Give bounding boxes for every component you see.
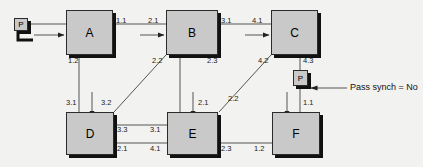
terminal-p-synch-label: P bbox=[298, 74, 303, 83]
label-c-in-left: 4.1 bbox=[252, 17, 262, 25]
node-e[interactable]: E bbox=[167, 112, 218, 155]
label-f-in-left: 1.2 bbox=[254, 145, 264, 153]
label-e-in-upper: 3.1 bbox=[150, 126, 160, 134]
node-b[interactable]: B bbox=[166, 10, 218, 55]
terminal-p-synch[interactable]: P bbox=[293, 70, 308, 86]
node-b-label: B bbox=[188, 26, 196, 40]
node-d-label: D bbox=[86, 127, 95, 141]
node-c-label: C bbox=[290, 26, 299, 40]
label-e-in-topright: 2.2 bbox=[228, 95, 238, 103]
label-d-in-lower: 2.1 bbox=[117, 145, 127, 153]
node-f[interactable]: F bbox=[272, 112, 320, 155]
label-e-out-lower: 4.1 bbox=[150, 145, 160, 153]
node-c[interactable]: C bbox=[271, 10, 318, 55]
label-d-in-topleft: 3.1 bbox=[66, 99, 76, 107]
node-e-label: E bbox=[188, 127, 196, 141]
label-e-out-right: 2.3 bbox=[221, 145, 231, 153]
terminal-p-input[interactable]: P bbox=[14, 18, 28, 31]
label-e-in-top: 2.1 bbox=[198, 99, 208, 107]
label-c-out-bottomleft: 4.2 bbox=[258, 57, 268, 65]
label-b-out-right: 3.1 bbox=[221, 17, 231, 25]
pass-synch-annotation: Pass synch = No bbox=[350, 83, 418, 92]
label-d-out-upper: 3.3 bbox=[117, 126, 127, 134]
process-flow-diagram: A B C D E F P P Pass synch = No 1.1 2.1 … bbox=[0, 0, 423, 167]
node-a-label: A bbox=[85, 26, 93, 40]
label-a-out-right: 1.1 bbox=[116, 17, 126, 25]
label-b-in-left: 2.1 bbox=[148, 17, 158, 25]
label-f-in-top: 1.1 bbox=[303, 99, 313, 107]
terminal-p-input-label: P bbox=[18, 20, 23, 29]
label-a-out-bottom: 1.2 bbox=[68, 57, 78, 65]
label-d-in-topright: 3.2 bbox=[101, 99, 111, 107]
node-a[interactable]: A bbox=[66, 10, 113, 55]
node-d[interactable]: D bbox=[66, 112, 114, 155]
node-f-label: F bbox=[292, 127, 299, 141]
label-c-out-bottom: 4.3 bbox=[303, 57, 313, 65]
label-b-out-bottom: 2.3 bbox=[207, 57, 217, 65]
label-b-out-bottomleft: 2.2 bbox=[152, 57, 162, 65]
